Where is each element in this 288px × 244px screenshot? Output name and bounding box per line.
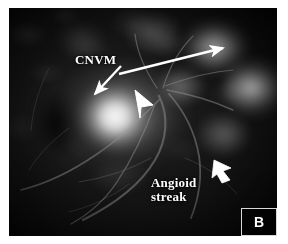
cnvm-short-arrow [95,66,121,94]
cnvm-arrowhead [135,90,153,118]
annotation-label-angioid-streak: Angioid streak [151,176,196,204]
panel-letter-badge: B [241,208,277,236]
cnvm-long-arrow [119,48,223,74]
annotation-label-cnvm: CNVM [75,53,116,66]
angioid-streak-arrowhead [212,160,231,183]
fundus-angiogram-image: CNVM Angioid streak B [9,8,277,236]
annotation-overlay [9,8,277,236]
figure-panel: CNVM Angioid streak B [0,0,288,244]
